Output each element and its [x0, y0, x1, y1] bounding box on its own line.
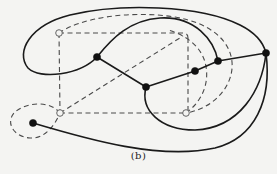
hollow-node-R — [183, 110, 190, 117]
hollow-node-Q — [57, 110, 64, 117]
dashed-edge-rect-left — [59, 33, 60, 113]
filled-node-D — [214, 57, 221, 64]
dashed-edge-inner-arc — [168, 30, 207, 113]
hollow-node-P — [56, 30, 63, 37]
solid-edge-D-E — [218, 53, 266, 61]
solid-edge-A-B — [97, 57, 146, 87]
dashed-edge-rect-top — [59, 33, 188, 38]
graph-diagram — [0, 0, 277, 174]
solid-edge-A-E — [23, 8, 266, 75]
solid-edge-F-E — [33, 53, 267, 152]
filled-node-E — [262, 49, 269, 56]
filled-node-F — [29, 119, 36, 126]
filled-nodes — [29, 49, 269, 126]
filled-node-B — [142, 83, 149, 90]
filled-node-C — [191, 67, 198, 74]
dashed-edge-diagonal — [60, 36, 183, 113]
figure-caption: (b) — [0, 150, 277, 161]
filled-node-A — [93, 53, 100, 60]
